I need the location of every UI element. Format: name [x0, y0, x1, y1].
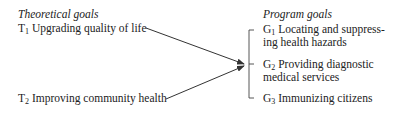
program-goal-g2: G2 Providing diagnostic medical services — [263, 58, 374, 84]
t2-symbol: T — [18, 92, 25, 104]
program-goal-g3: G3 Immunizing citizens — [263, 92, 372, 105]
program-goals-heading: Program goals — [263, 8, 332, 21]
g2-line2: medical services — [263, 71, 339, 83]
g1-line2: ing health hazards — [263, 36, 347, 48]
t2-sub: 2 — [25, 97, 29, 106]
theoretical-goal-t2: T2 Improving community health — [18, 92, 167, 105]
t2-label: Improving community health — [32, 92, 167, 104]
t1-symbol: T — [18, 22, 25, 34]
g3-line1: Immunizing citizens — [278, 92, 372, 104]
g2-line1: Providing diagnostic — [278, 58, 374, 70]
program-goal-g1: G1 Locating and suppress- ing health haz… — [263, 23, 385, 49]
t1-label: Upgrading quality of life — [32, 22, 147, 34]
arrow-t1-to-g — [146, 28, 244, 64]
theoretical-goals-heading: Theoretical goals — [18, 8, 98, 21]
g3-sub: 3 — [271, 97, 275, 106]
g1-line1: Locating and suppress- — [278, 23, 385, 35]
program-goals-bracket — [249, 30, 254, 98]
theoretical-goal-t1: T1 Upgrading quality of life — [18, 22, 147, 35]
t1-sub: 1 — [25, 27, 29, 36]
arrow-t2-to-g — [166, 66, 244, 99]
